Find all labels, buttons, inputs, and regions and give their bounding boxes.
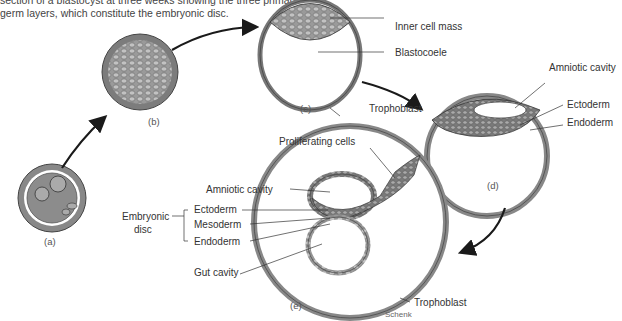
label-blastocoele: Blastocoele	[395, 47, 447, 58]
label-gut-cavity: Gut cavity	[194, 267, 238, 278]
label-endoderm-e: Endoderm	[194, 236, 240, 247]
label-proliferating-cells: Proliferating cells	[279, 136, 355, 147]
stage-b-morula	[102, 34, 178, 110]
label-embryonic-disc-2: disc	[134, 224, 152, 235]
stage-c-blastocyst	[260, 0, 384, 116]
stage-label-e: (e)	[290, 300, 302, 311]
label-amniotic-cavity-d: Amniotic cavity	[549, 62, 616, 73]
stage-label-c: (c)	[300, 103, 311, 114]
stage-label-d: (d)	[487, 180, 499, 191]
label-trophoblast-e: Trophoblast	[414, 297, 466, 308]
artist-signature: Schenk	[385, 310, 412, 319]
label-amniotic-cavity-e: Amniotic cavity	[206, 184, 273, 195]
label-ectoderm-d: Ectoderm	[567, 99, 610, 110]
blastocyst-diagram	[0, 0, 622, 321]
label-ectoderm-e: Ectoderm	[194, 204, 237, 215]
label-inner-cell-mass: Inner cell mass	[395, 21, 462, 32]
stage-label-b: (b)	[148, 116, 160, 127]
label-trophoblast-c: Trophoblast	[369, 103, 421, 114]
stage-d-bilaminar	[427, 83, 563, 216]
label-embryonic-disc-1: Embryonic	[122, 211, 169, 222]
stage-a-zygote	[18, 164, 86, 232]
stage-label-a: (a)	[44, 236, 56, 247]
label-mesoderm-e: Mesoderm	[194, 219, 241, 230]
label-endoderm-d: Endoderm	[567, 117, 613, 128]
